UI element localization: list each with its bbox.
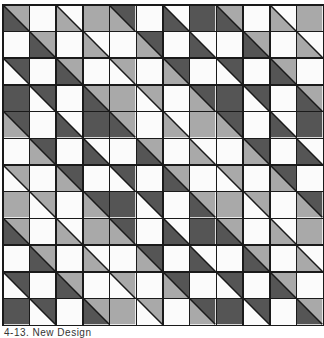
half-square-triangle-icon	[110, 6, 135, 31]
solid-square-icon	[297, 59, 322, 84]
quilt-cell	[190, 192, 215, 217]
quilt-cell	[30, 32, 55, 57]
half-square-triangle-icon	[110, 112, 135, 137]
quilt-cell	[271, 273, 296, 298]
quilt-cell	[244, 86, 269, 111]
quilt-cell	[30, 219, 55, 244]
half-square-triangle-icon	[217, 219, 242, 244]
quilt-pattern-grid	[2, 4, 324, 326]
quilt-cell	[84, 112, 109, 137]
half-square-triangle-icon	[271, 219, 296, 244]
quilt-cell	[110, 219, 135, 244]
quilt-cell	[57, 246, 82, 271]
solid-square-icon	[217, 192, 242, 217]
solid-square-icon	[164, 32, 189, 57]
quilt-cell	[110, 6, 135, 31]
quilt-cell	[30, 112, 55, 137]
quilt-cell	[4, 219, 29, 244]
quilt-cell	[84, 86, 109, 111]
quilt-cell	[137, 299, 162, 324]
half-square-triangle-icon	[164, 112, 189, 137]
quilt-cell	[84, 246, 109, 271]
quilt-cell	[190, 112, 215, 137]
quilt-cell	[164, 59, 189, 84]
quilt-cell	[190, 273, 215, 298]
quilt-cell	[57, 112, 82, 137]
solid-square-icon	[84, 59, 109, 84]
solid-square-icon	[244, 59, 269, 84]
solid-square-icon	[57, 299, 82, 324]
solid-square-icon	[84, 6, 109, 31]
solid-square-icon	[137, 112, 162, 137]
half-square-triangle-icon	[244, 139, 269, 164]
quilt-cell	[244, 246, 269, 271]
solid-square-icon	[4, 32, 29, 57]
quilt-cell	[244, 139, 269, 164]
quilt-cell	[84, 6, 109, 31]
quilt-cell	[57, 219, 82, 244]
half-square-triangle-icon	[217, 59, 242, 84]
quilt-cell	[110, 139, 135, 164]
half-square-triangle-icon	[30, 299, 55, 324]
quilt-cell	[137, 246, 162, 271]
quilt-cell	[4, 86, 29, 111]
quilt-cell	[57, 6, 82, 31]
solid-square-icon	[110, 192, 135, 217]
half-square-triangle-icon	[271, 166, 296, 191]
solid-square-icon	[4, 299, 29, 324]
half-square-triangle-icon	[297, 32, 322, 57]
solid-square-icon	[190, 59, 215, 84]
solid-square-icon	[4, 192, 29, 217]
solid-square-icon	[271, 139, 296, 164]
quilt-cell	[84, 59, 109, 84]
solid-square-icon	[137, 273, 162, 298]
quilt-cell	[164, 192, 189, 217]
solid-square-icon	[297, 112, 322, 137]
quilt-cell	[217, 59, 242, 84]
half-square-triangle-icon	[30, 192, 55, 217]
quilt-cell	[217, 273, 242, 298]
quilt-cell	[110, 59, 135, 84]
half-square-triangle-icon	[164, 273, 189, 298]
quilt-cell	[271, 192, 296, 217]
quilt-cell	[190, 246, 215, 271]
quilt-cell	[110, 192, 135, 217]
solid-square-icon	[244, 219, 269, 244]
quilt-cell	[164, 86, 189, 111]
quilt-cell	[297, 86, 322, 111]
quilt-cell	[164, 166, 189, 191]
solid-square-icon	[244, 273, 269, 298]
half-square-triangle-icon	[297, 86, 322, 111]
half-square-triangle-icon	[217, 166, 242, 191]
half-square-triangle-icon	[297, 139, 322, 164]
half-square-triangle-icon	[190, 139, 215, 164]
half-square-triangle-icon	[297, 299, 322, 324]
half-square-triangle-icon	[4, 6, 29, 31]
half-square-triangle-icon	[190, 32, 215, 57]
quilt-cell	[217, 6, 242, 31]
solid-square-icon	[217, 299, 242, 324]
half-square-triangle-icon	[164, 219, 189, 244]
quilt-cell	[297, 32, 322, 57]
half-square-triangle-icon	[84, 32, 109, 57]
quilt-cell	[30, 273, 55, 298]
quilt-cell	[190, 219, 215, 244]
half-square-triangle-icon	[4, 112, 29, 137]
quilt-cell	[297, 139, 322, 164]
solid-square-icon	[190, 219, 215, 244]
half-square-triangle-icon	[57, 273, 82, 298]
solid-square-icon	[244, 112, 269, 137]
half-square-triangle-icon	[217, 273, 242, 298]
quilt-cell	[4, 273, 29, 298]
quilt-cell	[137, 219, 162, 244]
half-square-triangle-icon	[137, 86, 162, 111]
half-square-triangle-icon	[57, 6, 82, 31]
quilt-cell	[110, 32, 135, 57]
solid-square-icon	[190, 273, 215, 298]
quilt-cell	[244, 299, 269, 324]
quilt-cell	[271, 112, 296, 137]
quilt-cell	[244, 273, 269, 298]
quilt-cell	[190, 32, 215, 57]
figure-caption: 4-13. New Design	[4, 327, 91, 338]
quilt-cell	[30, 86, 55, 111]
